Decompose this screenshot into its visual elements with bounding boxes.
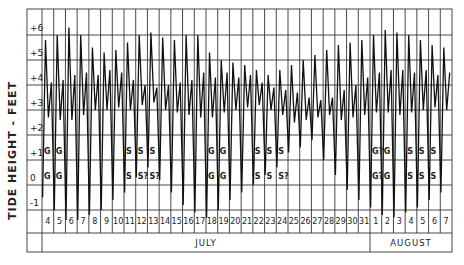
day-label: 13 bbox=[148, 217, 158, 226]
tide-annotation: G bbox=[384, 172, 391, 181]
tide-annotation: S bbox=[138, 147, 144, 156]
tide-annotation: S bbox=[126, 172, 132, 181]
x-axis-day-labels: 4567891011121314151617181920212223242526… bbox=[45, 217, 448, 226]
tide-annotation: G bbox=[56, 147, 63, 156]
tide-annotation: S? bbox=[278, 172, 289, 181]
tide-annotation: S bbox=[255, 172, 261, 181]
day-label: 4 bbox=[408, 217, 413, 226]
day-label: 25 bbox=[289, 217, 299, 226]
tide-annotation: G bbox=[44, 172, 51, 181]
day-label: 30 bbox=[347, 217, 357, 226]
day-label: 4 bbox=[45, 217, 50, 226]
x-axis-month-labels: JULYAUGUST bbox=[194, 238, 431, 248]
tide-annotation: S bbox=[407, 147, 413, 156]
y-tick-label: -1 bbox=[30, 198, 39, 208]
y-tick-label: +5 bbox=[30, 48, 43, 58]
tide-annotation: G bbox=[208, 172, 215, 181]
day-label: 11 bbox=[125, 217, 135, 226]
day-label: 6 bbox=[69, 217, 74, 226]
day-label: 16 bbox=[183, 217, 193, 226]
tide-annotation: S bbox=[126, 147, 132, 156]
day-label: 12 bbox=[136, 217, 146, 226]
tide-annotation: G bbox=[384, 147, 391, 156]
day-label: 19 bbox=[218, 217, 228, 226]
tide-annotation: S bbox=[407, 172, 413, 181]
tide-annotation: S bbox=[255, 147, 261, 156]
day-label: 8 bbox=[92, 217, 97, 226]
y-tick-label: +4 bbox=[30, 73, 44, 83]
y-tick-label: +2 bbox=[30, 123, 43, 133]
day-label: 23 bbox=[265, 217, 275, 226]
day-label: 24 bbox=[277, 217, 287, 226]
y-tick-label: +1 bbox=[30, 148, 43, 158]
day-label: 7 bbox=[80, 217, 85, 226]
tide-annotation: S bbox=[267, 172, 273, 181]
tide-annotation: S bbox=[431, 147, 437, 156]
day-label: 7 bbox=[444, 217, 449, 226]
tide-annotation: S bbox=[267, 147, 273, 156]
tide-annotation: S bbox=[419, 147, 425, 156]
month-label: AUGUST bbox=[390, 238, 431, 248]
month-label: JULY bbox=[194, 238, 217, 248]
y-axis-ticks: +6+5+4+3+2+10-1 bbox=[30, 23, 44, 208]
day-label: 28 bbox=[324, 217, 334, 226]
y-tick-label: 0 bbox=[30, 173, 36, 183]
day-label: 26 bbox=[300, 217, 310, 226]
day-label: 5 bbox=[420, 217, 425, 226]
day-label: 17 bbox=[195, 217, 205, 226]
day-label: 9 bbox=[104, 217, 109, 226]
day-label: 1 bbox=[373, 217, 378, 226]
tide-annotation: S bbox=[431, 172, 437, 181]
tide-line bbox=[43, 28, 450, 221]
tide-annotation: S bbox=[149, 147, 155, 156]
tide-annotation: G? bbox=[372, 172, 384, 181]
day-label: 3 bbox=[397, 217, 402, 226]
tide-annotation: S bbox=[419, 172, 425, 181]
day-label: 22 bbox=[254, 217, 264, 226]
day-label: 21 bbox=[242, 217, 252, 226]
y-tick-label: +3 bbox=[30, 98, 43, 108]
tide-annotation: G? bbox=[372, 147, 384, 156]
tide-annotation: G bbox=[220, 172, 227, 181]
day-label: 18 bbox=[207, 217, 217, 226]
tide-annotation: G bbox=[220, 147, 227, 156]
tide-annotation: S? bbox=[149, 172, 160, 181]
day-label: 10 bbox=[113, 217, 123, 226]
y-tick-label: +6 bbox=[30, 23, 44, 33]
day-label: 15 bbox=[172, 217, 182, 226]
day-label: 14 bbox=[160, 217, 170, 226]
day-label: 5 bbox=[57, 217, 62, 226]
day-label: 2 bbox=[385, 217, 390, 226]
day-label: 27 bbox=[312, 217, 322, 226]
tide-curve bbox=[43, 28, 450, 221]
day-label: 29 bbox=[336, 217, 346, 226]
tide-annotation: G bbox=[44, 147, 51, 156]
tide-annotation: G bbox=[208, 147, 215, 156]
tide-annotation: S bbox=[278, 147, 284, 156]
tide-chart: GGGGSSSSS?S?GGGGSSSSSS?G?GG?GSSSSSS +6+5… bbox=[0, 0, 464, 265]
day-label: 31 bbox=[359, 217, 369, 226]
day-label: 20 bbox=[230, 217, 240, 226]
tide-annotation: S? bbox=[138, 172, 149, 181]
day-label: 6 bbox=[432, 217, 437, 226]
tide-annotation: G bbox=[56, 172, 63, 181]
